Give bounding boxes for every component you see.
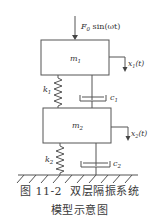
damper-c2 <box>81 143 110 175</box>
spring-k1 <box>54 75 62 108</box>
displacement-x1-label: x1(t) <box>128 59 144 69</box>
displacement-x1-arrow <box>109 57 128 72</box>
figure-title-line1: 双层隔振系统 <box>70 185 139 198</box>
displacement-x2-label: x2(t) <box>131 129 147 139</box>
figure-caption-line1: 图 11-2 双层隔振系统 <box>0 186 159 198</box>
spring-k2 <box>56 143 64 175</box>
figure-number: 图 11-2 <box>20 185 62 198</box>
force-arrow <box>72 16 78 40</box>
spring-k2-label: k2 <box>45 155 54 165</box>
force-label: F0 sin(ωt) <box>80 22 120 32</box>
ground <box>17 175 138 183</box>
damper-c1-label: c1 <box>110 93 118 103</box>
spring-k1-label: k1 <box>43 85 51 95</box>
damper-c1 <box>80 75 106 108</box>
displacement-x2-arrow <box>111 127 131 141</box>
damper-c2-label: c2 <box>113 159 121 169</box>
figure-caption-line2: 模型示意图 <box>0 205 159 217</box>
figure-title-line2: 模型示意图 <box>51 204 109 217</box>
